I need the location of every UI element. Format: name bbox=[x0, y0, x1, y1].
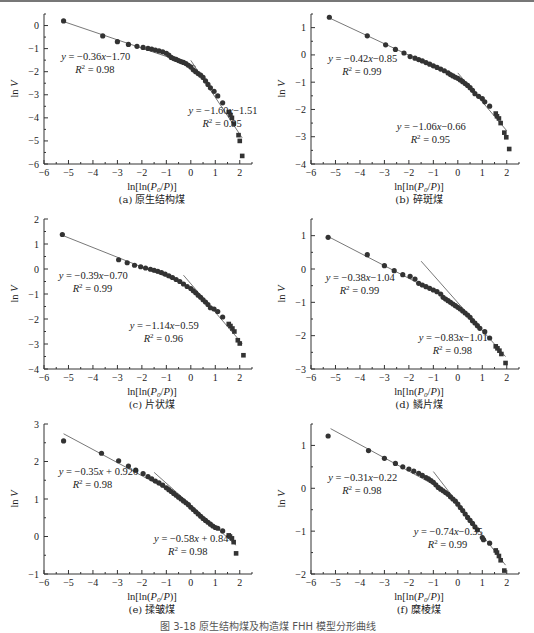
svg-text:y = −1.14x−0.59: y = −1.14x−0.59 bbox=[129, 320, 199, 331]
y-tick-label: −4 bbox=[28, 364, 39, 375]
svg-text:R2 = 0.98: R2 = 0.98 bbox=[167, 545, 207, 557]
data-point bbox=[408, 274, 413, 279]
y-tick-label: −2 bbox=[295, 104, 306, 115]
x-tick-label: −6 bbox=[39, 167, 50, 178]
x-tick-label: −6 bbox=[39, 577, 50, 588]
data-point bbox=[401, 50, 406, 55]
x-tick-label: −6 bbox=[306, 372, 317, 383]
data-point bbox=[498, 558, 503, 563]
y-tick-label: −6 bbox=[28, 159, 39, 170]
x-tick-label: 0 bbox=[455, 577, 460, 588]
x-tick-label: −1 bbox=[161, 372, 172, 383]
x-axis-label: ln[ln(P0/P)] bbox=[127, 591, 177, 604]
y-tick-label: 0 bbox=[301, 49, 306, 60]
panel-b: −6−5−4−3−2−1012−4−3−2−101ln[ln(P0/P)]ln … bbox=[267, 0, 534, 205]
y-axis-label: ln V bbox=[276, 284, 287, 303]
panel-c: −6−5−4−3−2−1012−4−3−2−1012ln[ln(P0/P)]ln… bbox=[0, 205, 267, 410]
y-tick-label: −5 bbox=[28, 135, 39, 146]
x-tick-label: 1 bbox=[480, 167, 485, 178]
data-point bbox=[232, 329, 237, 334]
y-axis-label: ln V bbox=[9, 79, 20, 98]
data-point bbox=[134, 44, 139, 49]
x-tick-label: −3 bbox=[379, 167, 390, 178]
x-tick-label: −5 bbox=[330, 577, 341, 588]
x-tick-label: −5 bbox=[330, 372, 341, 383]
chart-e: −6−5−4−3−2−1012−10123ln[ln(P0/P)]ln Vy =… bbox=[0, 410, 267, 620]
y-axis-label: ln V bbox=[9, 489, 20, 508]
svg-text:R2 = 0.98: R2 = 0.98 bbox=[72, 478, 112, 490]
data-point bbox=[237, 341, 242, 346]
data-point bbox=[240, 154, 245, 159]
y-tick-label: 2 bbox=[34, 456, 39, 467]
panel-d: −6−5−4−3−2−1012−3−2−101ln[ln(P0/P)]ln Vy… bbox=[267, 205, 534, 410]
fit-equation-1: y = −0.36x−1.70R2 = 0.98 bbox=[60, 51, 130, 75]
data-point bbox=[126, 42, 131, 47]
x-tick-label: −1 bbox=[428, 577, 439, 588]
svg-text:R2 = 0.99: R2 = 0.99 bbox=[339, 284, 379, 296]
y-tick-label: −4 bbox=[28, 112, 39, 123]
y-tick-label: −1 bbox=[295, 297, 306, 308]
y-tick-label: −1 bbox=[295, 526, 306, 537]
svg-text:R2 = 0.99: R2 = 0.99 bbox=[72, 282, 112, 294]
y-tick-label: −1 bbox=[295, 77, 306, 88]
y-tick-label: −2 bbox=[295, 330, 306, 341]
x-tick-label: −6 bbox=[306, 577, 317, 588]
x-tick-label: −6 bbox=[39, 372, 50, 383]
x-tick-label: −5 bbox=[330, 167, 341, 178]
data-point bbox=[481, 537, 486, 542]
x-tick-label: −2 bbox=[137, 577, 148, 588]
data-point bbox=[236, 133, 241, 138]
svg-text:y = −1.60x−1.51: y = −1.60x−1.51 bbox=[187, 105, 257, 116]
data-point bbox=[326, 433, 331, 438]
svg-text:y = −0.83x−1.01: y = −0.83x−1.01 bbox=[418, 332, 488, 343]
x-tick-label: −5 bbox=[63, 167, 74, 178]
y-tick-label: 1 bbox=[301, 440, 306, 451]
y-tick-label: 0 bbox=[34, 264, 39, 275]
svg-text:y = −0.42x−0.85: y = −0.42x−0.85 bbox=[327, 53, 397, 64]
svg-text:R2 = 0.98: R2 = 0.98 bbox=[432, 344, 472, 356]
data-point bbox=[412, 276, 417, 281]
x-tick-label: −2 bbox=[404, 167, 415, 178]
data-point bbox=[61, 438, 66, 443]
x-tick-label: −4 bbox=[355, 372, 366, 383]
fit-equation-2: y = −1.14x−0.59R2 = 0.96 bbox=[129, 320, 199, 344]
panel-e: −6−5−4−3−2−1012−10123ln[ln(P0/P)]ln Vy =… bbox=[0, 410, 267, 620]
data-point bbox=[382, 456, 387, 461]
data-point bbox=[400, 464, 405, 469]
data-point bbox=[116, 257, 121, 262]
data-point bbox=[237, 139, 242, 144]
panel-caption: (b) 碎斑煤 bbox=[395, 193, 442, 205]
x-tick-label: 1 bbox=[480, 372, 485, 383]
data-point bbox=[132, 263, 137, 268]
figure-caption: 图 3-18 原生结构煤及构造煤 FHH 模型分形曲线 bbox=[160, 618, 376, 633]
x-tick-label: −4 bbox=[88, 372, 99, 383]
x-tick-label: 0 bbox=[455, 167, 460, 178]
chart-f: −6−5−4−3−2−1012−2−101ln[ln(P0/P)]ln Vy =… bbox=[267, 410, 534, 620]
fit-equation-2: y = −0.83x−1.01R2 = 0.98 bbox=[418, 332, 488, 356]
data-point bbox=[487, 335, 492, 340]
fit-equation-1: y = −0.35x + 0.920R2 = 0.98 bbox=[58, 466, 139, 490]
svg-text:y = −0.38x−1.04: y = −0.38x−1.04 bbox=[325, 272, 396, 283]
x-tick-label: −4 bbox=[355, 167, 366, 178]
data-point bbox=[215, 309, 220, 314]
x-axis-label: ln[ln(P0/P)] bbox=[394, 386, 444, 399]
y-axis-label: ln V bbox=[276, 79, 287, 98]
fit-equation-2: y = −0.58x + 0.84R2 = 0.98 bbox=[153, 533, 229, 557]
svg-text:R2 = 0.95: R2 = 0.95 bbox=[201, 117, 241, 129]
x-tick-label: −3 bbox=[112, 372, 123, 383]
x-tick-label: −5 bbox=[63, 372, 74, 383]
data-point bbox=[327, 15, 332, 20]
data-point bbox=[141, 471, 146, 476]
x-tick-label: −1 bbox=[161, 577, 172, 588]
data-point bbox=[499, 352, 504, 357]
y-tick-label: 1 bbox=[301, 22, 306, 33]
x-tick-label: −4 bbox=[88, 577, 99, 588]
x-tick-label: 0 bbox=[188, 372, 193, 383]
x-tick-label: −4 bbox=[88, 167, 99, 178]
data-point bbox=[100, 33, 105, 38]
data-point bbox=[406, 466, 411, 471]
x-tick-label: −4 bbox=[355, 577, 366, 588]
x-tick-label: 1 bbox=[213, 577, 218, 588]
x-tick-label: −6 bbox=[306, 167, 317, 178]
data-point bbox=[60, 232, 65, 237]
